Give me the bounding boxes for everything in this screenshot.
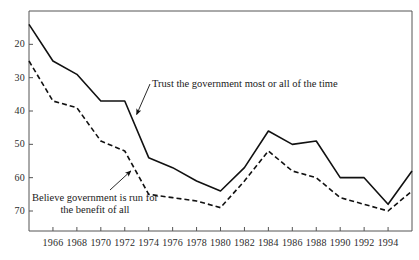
y-tick-label: 20 (3, 38, 25, 49)
chart-container: 706050403020 196619681970197219741976197… (0, 0, 419, 260)
annotation-leader-line (110, 171, 131, 190)
line-chart-svg (0, 0, 419, 260)
x-axis-ticks (53, 227, 388, 231)
y-tick-label: 70 (3, 205, 25, 216)
annotation-leader-line (137, 84, 150, 114)
y-tick-label: 40 (3, 105, 25, 116)
x-tick-label: 1994 (373, 237, 403, 248)
trust-annotation-label: Trust the government most or all of the … (152, 78, 338, 90)
y-tick-label: 60 (3, 172, 25, 183)
data-series-layer (29, 24, 412, 211)
benefit-annotation-label: Believe government is run for the benefi… (32, 192, 158, 216)
y-tick-label: 30 (3, 72, 25, 83)
y-tick-label: 50 (3, 138, 25, 149)
benefit-annotation-line-1: Believe government is run for (32, 192, 158, 203)
y-axis-ticks (29, 44, 33, 211)
series-line (29, 24, 412, 204)
benefit-annotation-line-2: the benefit of all (60, 204, 129, 215)
annotation-leader-lines (110, 84, 150, 190)
